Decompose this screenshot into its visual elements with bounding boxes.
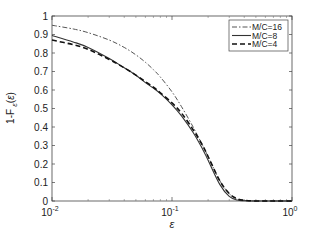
y-tick-label: 0.4 bbox=[34, 122, 48, 133]
x-tick-label: 10-2 bbox=[41, 205, 58, 218]
legend-label: M/C=4 bbox=[252, 39, 278, 49]
y-tick-label: 0.8 bbox=[34, 48, 48, 59]
y-axis-label: 1-F ε(ε) bbox=[5, 92, 19, 124]
line-chart: 00.10.20.30.40.50.60.70.80.9110-210-1100… bbox=[0, 0, 315, 234]
y-tick-label: 0.9 bbox=[34, 29, 48, 40]
y-tick-label: 0.7 bbox=[34, 66, 48, 77]
y-tick-label: 0 bbox=[42, 196, 48, 207]
plot-lines bbox=[52, 25, 292, 201]
svg-text:1-F ε(ε): 1-F ε(ε) bbox=[5, 92, 19, 124]
legend: M/C=16M/C=8M/C=4 bbox=[229, 20, 288, 51]
y-tick-label: 0.1 bbox=[34, 177, 48, 188]
y-tick-label: 0.6 bbox=[34, 85, 48, 96]
chart-container: 00.10.20.30.40.50.60.70.80.9110-210-1100… bbox=[0, 0, 315, 234]
y-tick-label: 0.5 bbox=[34, 103, 48, 114]
y-tick-label: 1 bbox=[42, 11, 48, 22]
series-line-1 bbox=[52, 35, 292, 201]
x-tick-label: 10-1 bbox=[161, 205, 178, 218]
y-tick-label: 0.2 bbox=[34, 159, 48, 170]
x-axis-label: ε bbox=[170, 218, 175, 230]
series-line-2 bbox=[52, 40, 292, 201]
x-tick-label: 100 bbox=[282, 205, 297, 218]
series-line-0 bbox=[52, 25, 292, 201]
y-tick-label: 0.3 bbox=[34, 140, 48, 151]
